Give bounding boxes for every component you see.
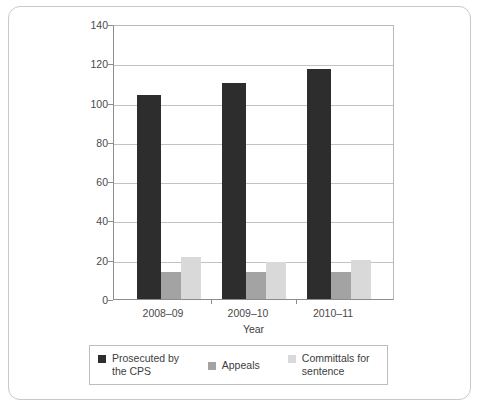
bar-appeals-2008-09[interactable] <box>161 272 181 300</box>
bar-appeals-2009-10[interactable] <box>246 272 266 300</box>
bar-group-2008-09 <box>127 26 212 299</box>
x-tick-mark <box>211 299 212 304</box>
legend-label-committals: Committals for sentence <box>302 352 370 378</box>
bar-committals-2009-10[interactable] <box>266 262 286 299</box>
bar-group-2010-11 <box>297 26 382 299</box>
legend-swatch-icon <box>208 362 216 370</box>
chart-legend: Prosecuted by the CPS Appeals Committals… <box>89 345 388 385</box>
y-tick-label: 120 <box>68 58 108 70</box>
bar-prosecuted-2010-11[interactable] <box>307 69 331 299</box>
y-tick-label: 0 <box>68 294 108 306</box>
y-tick-label: 80 <box>68 137 108 149</box>
bar-group-2009-10 <box>212 26 297 299</box>
y-tick-label: 140 <box>68 19 108 31</box>
y-tick-label: 40 <box>68 215 108 227</box>
legend-swatch-icon <box>288 355 296 363</box>
y-axis-tick-labels: 0 20 40 60 80 100 120 140 <box>60 25 108 301</box>
plot-area <box>113 25 394 300</box>
legend-item-prosecuted[interactable]: Prosecuted by the CPS <box>98 352 206 378</box>
legend-item-committals[interactable]: Committals for sentence <box>288 352 377 378</box>
bar-committals-2010-11[interactable] <box>351 260 371 299</box>
legend-label-prosecuted: Prosecuted by the CPS <box>112 352 179 378</box>
y-tick-label: 60 <box>68 176 108 188</box>
bar-committals-2008-09[interactable] <box>181 257 201 299</box>
x-tick-mark <box>296 299 297 304</box>
y-tick-label: 100 <box>68 98 108 110</box>
x-tick-label-2010-11: 2010–11 <box>273 307 393 319</box>
bar-appeals-2010-11[interactable] <box>331 272 351 300</box>
bar-prosecuted-2009-10[interactable] <box>222 83 246 299</box>
legend-swatch-icon <box>98 355 106 363</box>
legend-label-appeals: Appeals <box>222 359 260 372</box>
y-tick-mark <box>108 300 113 301</box>
bar-prosecuted-2008-09[interactable] <box>137 95 161 299</box>
chart-figure: Number of Cases (thousands) 0 20 40 60 8… <box>0 0 479 406</box>
y-tick-label: 20 <box>68 255 108 267</box>
x-axis-title: Year <box>113 323 394 335</box>
legend-item-appeals[interactable]: Appeals <box>208 359 286 372</box>
